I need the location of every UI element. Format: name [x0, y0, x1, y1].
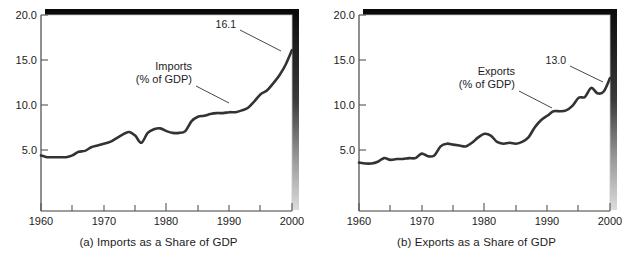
- figure-container: 20.0 15.0 10.0 5.0 1960 1970 1980 1990 2…: [0, 0, 635, 265]
- chart-panel-exports: 20.0 15.0 10.0 5.0 1960 1970 1980 1990 2…: [318, 0, 635, 265]
- panel-caption-exports: (b) Exports as a Share of GDP: [318, 236, 635, 248]
- plot-area-background: [359, 15, 610, 211]
- series-annotation-line1: Exports: [478, 65, 516, 77]
- y-tick-label-5: 5.0: [22, 144, 37, 156]
- series-annotation-line1: Imports: [155, 60, 192, 72]
- x-tick-label-1980: 1980: [154, 215, 178, 227]
- x-tick-label-1970: 1970: [92, 215, 116, 227]
- y-tick-label-20: 20.0: [334, 9, 355, 21]
- series-annotation-line2: (% of GDP): [136, 73, 192, 85]
- x-tick-label-2000: 2000: [598, 215, 622, 227]
- y-tick-label-20: 20.0: [16, 9, 37, 21]
- y-tick-label-10: 10.0: [334, 99, 355, 111]
- series-annotation-line2: (% of GDP): [459, 78, 515, 90]
- x-tick-label-1990: 1990: [535, 215, 559, 227]
- x-tick-label-1970: 1970: [410, 215, 434, 227]
- endpoint-value-label: 16.1: [216, 18, 237, 30]
- panel-caption-imports: (a) Imports as a Share of GDP: [0, 236, 317, 248]
- x-tick-label-1980: 1980: [472, 215, 496, 227]
- x-tick-label-1990: 1990: [217, 215, 241, 227]
- x-tick-label-1960: 1960: [29, 215, 53, 227]
- y-tick-label-5: 5.0: [340, 144, 355, 156]
- x-tick-label-1960: 1960: [347, 215, 371, 227]
- panel-shadow-right: [292, 9, 299, 210]
- y-tick-label-15: 15.0: [16, 54, 37, 66]
- exports-chart-svg: 20.0 15.0 10.0 5.0 1960 1970 1980 1990 2…: [318, 0, 635, 236]
- y-tick-label-10: 10.0: [16, 99, 37, 111]
- plot-area-background: [41, 15, 292, 211]
- y-tick-label-15: 15.0: [334, 54, 355, 66]
- endpoint-value-label: 13.0: [546, 54, 567, 66]
- imports-chart-svg: 20.0 15.0 10.0 5.0 1960 1970 1980 1990 2…: [0, 0, 317, 236]
- x-tick-label-2000: 2000: [280, 215, 304, 227]
- panel-shadow-right: [610, 9, 617, 210]
- chart-panel-imports: 20.0 15.0 10.0 5.0 1960 1970 1980 1990 2…: [0, 0, 317, 265]
